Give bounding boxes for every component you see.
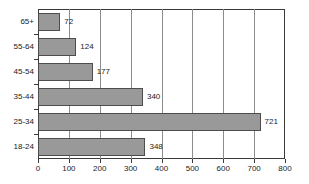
y-axis-category-label: 35-44 xyxy=(14,93,34,101)
y-axis-tick xyxy=(34,84,38,85)
bar-band: 177 xyxy=(38,59,285,84)
bar xyxy=(38,38,76,56)
x-axis-tick-label: 0 xyxy=(36,165,40,173)
bar-band: 124 xyxy=(38,34,285,59)
bar-band: 721 xyxy=(38,109,285,134)
x-axis-tick xyxy=(69,159,70,163)
x-axis-tick xyxy=(162,159,163,163)
y-axis-category-label: 18-24 xyxy=(14,143,34,151)
y-axis-category-label: 65+ xyxy=(20,18,34,26)
y-axis-tick xyxy=(34,109,38,110)
x-axis-tick xyxy=(285,159,286,163)
x-axis-tick xyxy=(223,159,224,163)
x-axis-tick-label: 300 xyxy=(124,165,137,173)
x-axis-tick xyxy=(192,159,193,163)
x-axis-tick-label: 600 xyxy=(217,165,230,173)
x-axis-tick xyxy=(38,159,39,163)
y-axis-tick xyxy=(34,134,38,135)
y-axis-tick xyxy=(34,34,38,35)
bars-container: 72124177340721348 xyxy=(38,9,285,159)
bar xyxy=(38,138,145,156)
y-axis-category-labels: 65+55-6445-5435-4425-3418-24 xyxy=(0,0,34,184)
bar-value-label: 72 xyxy=(64,18,73,26)
bar-value-label: 348 xyxy=(149,143,162,151)
x-axis-tick-label: 800 xyxy=(278,165,291,173)
bar xyxy=(38,113,261,131)
x-axis-tick-label: 500 xyxy=(186,165,199,173)
bar-value-label: 177 xyxy=(97,68,110,76)
y-axis-category-label: 55-64 xyxy=(14,43,34,51)
y-axis-category-label: 25-34 xyxy=(14,118,34,126)
x-axis-tick xyxy=(100,159,101,163)
bar xyxy=(38,88,143,106)
bar-value-label: 721 xyxy=(265,118,278,126)
bar-value-label: 340 xyxy=(147,93,160,101)
x-axis-tick-label: 100 xyxy=(62,165,75,173)
y-axis-tick xyxy=(34,59,38,60)
x-axis-tick xyxy=(131,159,132,163)
bar-band: 72 xyxy=(38,9,285,34)
x-axis-tick-label: 200 xyxy=(93,165,106,173)
bar-value-label: 124 xyxy=(80,43,93,51)
bar xyxy=(38,63,93,81)
x-axis-tick xyxy=(254,159,255,163)
x-axis-tick-label: 400 xyxy=(155,165,168,173)
bar-chart: 72124177340721348 0100200300400500600700… xyxy=(0,0,309,184)
y-axis-category-label: 45-54 xyxy=(14,68,34,76)
x-axis-tick-label: 700 xyxy=(247,165,260,173)
bar-band: 340 xyxy=(38,84,285,109)
bar-band: 348 xyxy=(38,134,285,159)
bar xyxy=(38,13,60,31)
